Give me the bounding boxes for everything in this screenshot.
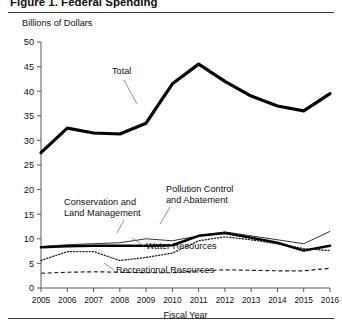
annotation-leader-line	[160, 207, 170, 224]
series-annotation-label: Land Management	[64, 208, 141, 218]
series-annotation-label: Conservation and	[64, 197, 136, 207]
x-tick-label: 2007	[84, 295, 103, 305]
x-tick-label: 2006	[58, 295, 77, 305]
x-tick-label: 2015	[294, 295, 313, 305]
y-tick-label: 50	[24, 37, 34, 47]
series-annotation-label: and Abatement	[166, 195, 228, 205]
series-line-total	[41, 64, 330, 153]
y-tick-label: 35	[24, 111, 34, 121]
series-annotation-label: Recreational Resources	[116, 265, 214, 275]
x-tick-label: 2009	[137, 295, 156, 305]
y-tick-label: 5	[29, 259, 34, 269]
x-tick-label: 2012	[216, 295, 235, 305]
x-tick-label: 2016	[321, 295, 340, 305]
annotation-leader-line	[117, 220, 124, 233]
y-tick-label: 10	[24, 234, 34, 244]
x-tick-label: 2014	[268, 295, 287, 305]
x-tick-label: 2005	[32, 295, 51, 305]
y-tick-label: 30	[24, 136, 34, 146]
series-annotation-label: Water Resources	[146, 241, 217, 251]
series-annotation-label: Pollution Control	[166, 184, 233, 194]
annotation-leader-line	[104, 263, 114, 270]
figure-container: Figure 1. Federal Spending Billions of D…	[0, 0, 342, 325]
y-tick-label: 40	[24, 87, 34, 97]
annotation-leader-line	[124, 80, 137, 104]
series-annotation-label: Total	[112, 66, 131, 76]
y-tick-label: 0	[29, 283, 34, 293]
y-tick-label: 15	[24, 210, 34, 220]
x-tick-label: 2013	[242, 295, 261, 305]
y-tick-label: 45	[24, 62, 34, 72]
y-tick-label: 20	[24, 185, 34, 195]
x-tick-label: 2008	[111, 295, 130, 305]
bottom-divider-rule	[8, 318, 334, 319]
x-tick-label: 2010	[163, 295, 182, 305]
line-chart-plot: 0510152025303540455020052006200720082009…	[0, 0, 342, 325]
x-tick-label: 2011	[190, 295, 208, 305]
y-tick-label: 25	[24, 160, 34, 170]
